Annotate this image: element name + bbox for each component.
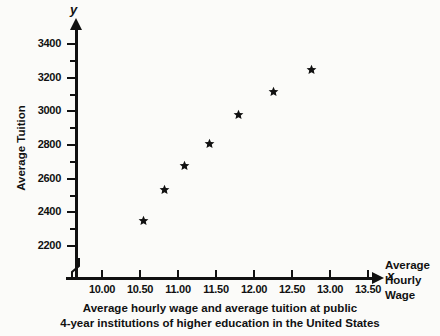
x-tick-10.50	[139, 270, 141, 279]
x-tick-10.00	[101, 270, 103, 279]
y-axis-title: Average Tuition	[15, 78, 27, 218]
y-minor-tick-2300	[70, 228, 76, 230]
y-minor-tick-2900	[70, 127, 76, 129]
x-tick-12.00	[253, 270, 255, 279]
chart-caption: Average hourly wage and average tuition …	[0, 301, 440, 331]
x-axis-line	[66, 277, 378, 280]
y-minor-tick-2700	[70, 161, 76, 163]
x-axis-title-line-2: Hourly	[385, 273, 440, 288]
chart-caption-line-2: 4-year institutions of higher education …	[0, 316, 440, 331]
x-axis-title-line-1: Average	[385, 258, 440, 273]
x-tick-11.50	[215, 270, 217, 279]
data-point	[233, 109, 244, 120]
y-tick-2800	[67, 144, 76, 146]
x-tick-11.00	[177, 270, 179, 279]
data-point	[179, 160, 190, 171]
y-tick-label-2200: 2200	[17, 239, 61, 251]
data-point	[306, 64, 317, 75]
y-axis-line	[75, 28, 78, 278]
data-point	[159, 184, 170, 195]
y-axis-variable-symbol: y	[70, 2, 77, 17]
y-tick-2200	[67, 245, 76, 247]
y-tick-3200	[67, 77, 76, 79]
x-tick-13.00	[329, 270, 331, 279]
y-minor-tick-2500	[70, 195, 76, 197]
chart-caption-line-1: Average hourly wage and average tuition …	[0, 301, 440, 316]
data-point	[268, 86, 279, 97]
y-tick-2600	[67, 178, 76, 180]
axis-break-icon	[68, 258, 86, 280]
y-tick-3000	[67, 110, 76, 112]
x-tick-13.50	[367, 270, 369, 279]
scatter-plot-screen: y x 2200240026002800300032003400 10.0010…	[0, 0, 440, 336]
x-tick-12.50	[291, 270, 293, 279]
plot-area: y x 2200240026002800300032003400 10.0010…	[0, 0, 440, 336]
y-tick-label-3400: 3400	[17, 37, 61, 49]
data-point	[138, 215, 149, 226]
data-point	[204, 138, 215, 149]
y-minor-tick-3300	[70, 60, 76, 62]
y-axis-arrow-icon	[70, 18, 82, 30]
y-tick-2400	[67, 211, 76, 213]
y-minor-tick-3100	[70, 94, 76, 96]
y-tick-3400	[67, 43, 76, 45]
x-axis-title: Average Hourly Wage	[385, 258, 440, 303]
